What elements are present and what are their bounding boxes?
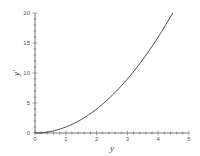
y-axis-label: y′	[11, 69, 21, 77]
y-tick-label: 20	[23, 10, 30, 16]
x-tick-label: 0	[33, 136, 37, 142]
chart: 01234505101520 y y′	[0, 0, 200, 156]
y-tick-label: 5	[27, 100, 31, 106]
x-tick-label: 1	[64, 136, 68, 142]
x-tick-label: 2	[95, 136, 99, 142]
y-tick-label: 0	[27, 130, 31, 136]
x-tick-label: 3	[126, 136, 130, 142]
axes	[35, 13, 189, 133]
tick-labels: 01234505101520	[23, 10, 191, 142]
x-tick-label: 4	[157, 136, 161, 142]
y-tick-label: 15	[23, 40, 30, 46]
tick-marks	[33, 13, 190, 136]
y-tick-label: 10	[23, 70, 30, 76]
x-axis-label: y	[109, 143, 114, 153]
data-curve	[35, 13, 173, 133]
x-tick-label: 5	[187, 136, 191, 142]
